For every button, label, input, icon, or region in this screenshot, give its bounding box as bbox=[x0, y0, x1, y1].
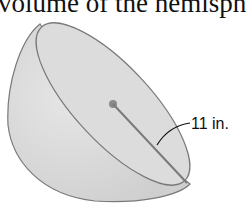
hemisphere-figure bbox=[0, 0, 251, 203]
radius-label: 11 in. bbox=[191, 115, 229, 133]
